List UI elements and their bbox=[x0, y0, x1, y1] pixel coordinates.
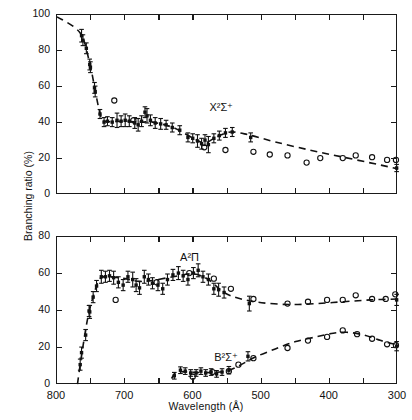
x-axis-tick bbox=[227, 188, 228, 194]
data-point-with-error-bar bbox=[126, 271, 131, 282]
data-point-with-error-bar bbox=[99, 270, 104, 283]
x-axis-tick bbox=[124, 14, 125, 20]
x-axis-tick bbox=[363, 378, 364, 384]
data-point-open-circle bbox=[384, 342, 389, 347]
data-point-open-circle bbox=[267, 152, 272, 157]
x-axis-tick bbox=[90, 188, 91, 194]
data-point-open-circle bbox=[369, 336, 374, 341]
x-axis-tick bbox=[261, 188, 262, 194]
data-point-with-error-bar bbox=[212, 134, 217, 143]
y-axis-tick bbox=[56, 273, 62, 274]
x-axis-tick bbox=[90, 14, 91, 20]
data-point-open-circle bbox=[324, 334, 329, 339]
data-point-with-error-bar bbox=[248, 133, 253, 142]
x-axis-tick bbox=[261, 14, 262, 20]
x-axis-tick bbox=[124, 236, 125, 242]
data-point-with-error-bar bbox=[103, 271, 108, 282]
data-point-open-circle bbox=[285, 345, 290, 350]
series-label-a2pi: A²Π bbox=[180, 251, 199, 263]
data-point-with-error-bar bbox=[136, 119, 141, 132]
data-point-with-error-bar bbox=[216, 283, 221, 296]
figure-root: 020406080100 X²Σ⁺ 020406080 800700600500… bbox=[0, 0, 412, 420]
data-point-with-error-bar bbox=[230, 128, 235, 137]
series-label-b2sigma: B²Σ⁺ bbox=[214, 351, 238, 364]
data-point-with-error-bar bbox=[146, 274, 151, 285]
data-point-open-circle bbox=[113, 297, 118, 302]
data-point-open-circle bbox=[228, 286, 233, 291]
data-point-with-error-bar bbox=[176, 267, 181, 280]
data-point-with-error-bar bbox=[220, 369, 225, 376]
data-point-with-error-bar bbox=[111, 271, 116, 284]
y-axis-tick-label: 0 bbox=[20, 378, 50, 388]
x-axis-tick bbox=[227, 236, 228, 242]
x-axis-tick bbox=[295, 14, 296, 20]
data-point-with-error-bar bbox=[191, 268, 196, 279]
y-axis-tick bbox=[56, 236, 62, 237]
x-axis-tick bbox=[261, 236, 262, 242]
data-point-open-circle bbox=[324, 297, 329, 302]
data-point-with-error-bar bbox=[78, 359, 83, 370]
y-axis-tick bbox=[56, 86, 62, 87]
x-axis-tick bbox=[295, 236, 296, 242]
y-axis-tick-label: 100 bbox=[20, 8, 50, 18]
x-axis-tick bbox=[227, 14, 228, 20]
data-point-with-error-bar bbox=[121, 280, 126, 291]
data-point-with-error-bar bbox=[83, 330, 88, 341]
y-axis-tick-label: 80 bbox=[20, 44, 50, 54]
data-point-with-error-bar bbox=[199, 138, 204, 149]
y-axis-tick-right bbox=[391, 50, 397, 51]
data-point-with-error-bar bbox=[181, 270, 186, 281]
y-axis-tick-right bbox=[391, 310, 397, 311]
x-axis-tick bbox=[295, 188, 296, 194]
data-point-with-error-bar bbox=[160, 283, 165, 294]
x-axis-tick bbox=[192, 188, 193, 194]
y-axis-tick-right bbox=[391, 347, 397, 348]
x-axis-tick bbox=[158, 236, 159, 242]
data-point-with-error-bar bbox=[115, 113, 120, 127]
y-axis-tick-label: 60 bbox=[20, 80, 50, 90]
series-label-x2sigma: X²Σ⁺ bbox=[209, 101, 233, 114]
x-axis-title: Wavelength (Å) bbox=[0, 400, 412, 412]
data-point-with-error-bar bbox=[190, 134, 195, 143]
data-point-with-error-bar bbox=[164, 120, 169, 129]
data-point-open-circle bbox=[112, 98, 117, 103]
data-point-open-circle bbox=[318, 156, 323, 161]
data-point-open-circle bbox=[304, 160, 309, 165]
data-point-with-error-bar bbox=[127, 116, 132, 127]
x-axis-tick bbox=[329, 14, 330, 20]
y-axis-tick bbox=[56, 158, 62, 159]
data-point-with-error-bar bbox=[171, 269, 176, 280]
data-point-open-circle bbox=[251, 149, 256, 154]
data-point-with-error-bar bbox=[165, 274, 170, 285]
x-axis-tick bbox=[192, 236, 193, 242]
data-point-with-error-bar bbox=[158, 119, 163, 130]
x-axis-tick bbox=[158, 14, 159, 20]
x-axis-tick bbox=[227, 378, 228, 384]
y-axis-tick-right bbox=[391, 236, 397, 237]
y-axis-title: Branching ratio (%) bbox=[22, 116, 34, 276]
data-point-open-circle bbox=[353, 293, 358, 298]
data-point-with-error-bar bbox=[394, 294, 399, 305]
data-point-with-error-bar bbox=[223, 128, 228, 137]
y-axis-tick-label: 20 bbox=[20, 341, 50, 351]
y-axis-tick-right bbox=[391, 273, 397, 274]
x-axis-tick bbox=[295, 378, 296, 384]
data-point-with-error-bar bbox=[195, 135, 200, 148]
data-point-with-error-bar bbox=[201, 271, 206, 282]
data-point-with-error-bar bbox=[153, 118, 158, 129]
data-point-with-error-bar bbox=[116, 277, 121, 288]
data-point-with-error-bar bbox=[110, 118, 115, 127]
data-point-with-error-bar bbox=[137, 281, 142, 294]
data-point-open-circle bbox=[384, 157, 389, 162]
data-point-with-error-bar bbox=[79, 347, 84, 358]
data-point-with-error-bar bbox=[150, 278, 155, 289]
x-axis-tick bbox=[192, 14, 193, 20]
data-point-with-error-bar bbox=[170, 123, 175, 132]
data-point-with-error-bar bbox=[130, 272, 135, 287]
y-axis-tick-label: 40 bbox=[20, 304, 50, 314]
data-point-with-error-bar bbox=[142, 270, 147, 283]
data-point-with-error-bar bbox=[156, 280, 161, 291]
x-axis-tick bbox=[329, 378, 330, 384]
data-point-open-circle bbox=[353, 153, 358, 158]
data-point-with-error-bar bbox=[177, 126, 182, 135]
